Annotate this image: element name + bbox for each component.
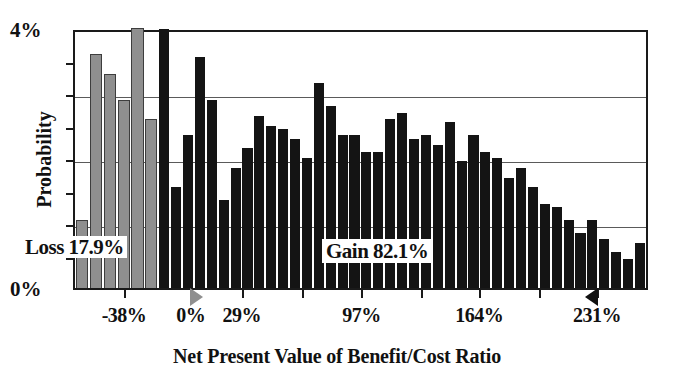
x-axis-tick-label: 29% [223, 304, 262, 327]
histogram-bar [159, 29, 169, 288]
histogram-bar [183, 135, 193, 288]
x-axis-tick-label: 97% [342, 304, 381, 327]
right-certainty-marker[interactable] [585, 288, 598, 306]
histogram-bar [145, 119, 157, 288]
histogram-bar [433, 145, 443, 288]
histogram-figure: 4% 0% Probability -38%0%29%97%164%231% L… [0, 0, 674, 388]
loss-annotation: Loss 17.9% [22, 236, 127, 258]
histogram-bar [468, 135, 478, 288]
y-axis-max-label: 4% [10, 18, 42, 43]
histogram-bar [492, 158, 502, 288]
histogram-bar [373, 152, 383, 289]
histogram-bar [480, 152, 490, 289]
histogram-bar [635, 243, 645, 289]
x-axis-minor-tick [421, 290, 423, 298]
histogram-bar [504, 178, 514, 289]
histogram-bar [278, 129, 288, 288]
histogram-bar [231, 168, 241, 288]
y-axis-min-label: 0% [10, 277, 42, 302]
x-axis-tick [361, 290, 363, 298]
histogram-bar [207, 100, 217, 289]
histogram-bar [564, 220, 574, 288]
x-axis-minor-tick [302, 290, 304, 298]
histogram-bar [540, 204, 550, 289]
histogram-bar [361, 152, 371, 289]
histogram-bar [587, 220, 597, 288]
histogram-bar [266, 126, 276, 289]
histogram-bar [195, 57, 205, 288]
x-axis-tick-label: -38% [102, 304, 147, 327]
x-axis-tick [479, 290, 481, 298]
histogram-bar [421, 135, 431, 288]
x-axis-tick-label: 0% [176, 304, 205, 327]
histogram-bar [254, 116, 264, 288]
histogram-bar [445, 122, 455, 288]
histogram-bar [302, 158, 312, 288]
histogram-bar [409, 139, 419, 289]
histogram-bar [118, 100, 130, 289]
x-axis-tick-label: 164% [455, 304, 503, 327]
histogram-bar [219, 200, 229, 288]
x-axis-tick-label: 231% [573, 304, 621, 327]
y-axis-title: Probability [33, 85, 56, 235]
histogram-bar [552, 207, 562, 288]
histogram-bar [349, 135, 359, 288]
histogram-bar [290, 139, 300, 289]
histogram-bar [611, 252, 621, 288]
x-axis-title: Net Present Value of Benefit/Cost Ratio [0, 345, 674, 368]
x-axis-minor-tick [539, 290, 541, 298]
gain-annotation: Gain 82.1% [322, 239, 432, 263]
x-axis-tick [242, 290, 244, 298]
histogram-bar [242, 148, 252, 288]
histogram-bar [171, 187, 181, 288]
left-certainty-marker[interactable] [190, 288, 203, 306]
histogram-bar [457, 161, 467, 288]
histogram-bar [575, 233, 585, 288]
histogram-bar [131, 28, 143, 288]
histogram-bar [599, 239, 609, 288]
histogram-bar [338, 135, 348, 288]
histogram-bar [516, 168, 526, 288]
x-axis-tick [124, 290, 126, 298]
histogram-bar [623, 259, 633, 288]
histogram-bar [528, 187, 538, 288]
